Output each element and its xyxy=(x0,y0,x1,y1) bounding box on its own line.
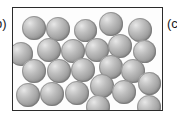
figure-root: b) (c xyxy=(0,0,177,117)
particle-sphere xyxy=(112,80,136,104)
panel-label-c: (c xyxy=(167,17,177,30)
particle-sphere xyxy=(22,59,46,83)
panel-label-b: b) xyxy=(0,17,7,30)
particle-sphere xyxy=(22,16,46,40)
particle-sphere xyxy=(90,74,114,98)
particle-sphere xyxy=(138,72,161,95)
particle-container-box xyxy=(12,7,163,111)
particle-sphere xyxy=(128,18,152,42)
particle-sphere xyxy=(16,83,40,107)
particle-sphere xyxy=(65,81,89,105)
particle-sphere xyxy=(99,12,123,36)
particle-sphere xyxy=(40,82,64,106)
particle-sphere xyxy=(47,59,71,83)
